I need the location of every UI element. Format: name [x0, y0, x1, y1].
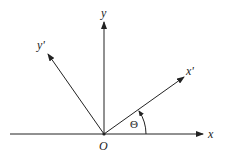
y-prime-axis-label: y'	[36, 38, 45, 52]
x-prime-axis	[104, 77, 184, 134]
angle-label: Θ	[130, 118, 138, 130]
origin-point	[102, 132, 105, 135]
x-axis-label: x	[207, 127, 214, 141]
y-axis-label: y	[100, 6, 107, 20]
angle-arc	[139, 111, 146, 134]
y-prime-axis	[48, 54, 104, 134]
rotation-diagram: x y x' y' O Θ	[0, 0, 225, 160]
origin-label: O	[99, 139, 108, 153]
x-prime-axis-label: x'	[185, 64, 194, 78]
